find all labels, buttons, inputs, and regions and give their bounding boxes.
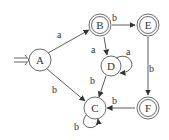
state-A-label: A xyxy=(36,54,44,66)
label-D-C: b xyxy=(90,75,95,86)
label-A-C: b xyxy=(52,84,57,95)
state-F-label: F xyxy=(145,102,151,114)
edge-D-C xyxy=(99,76,106,97)
label-D-D: a xyxy=(126,46,131,57)
state-C-label: C xyxy=(91,102,98,114)
label-F-C: b xyxy=(112,95,117,106)
edge-A-B xyxy=(48,30,89,53)
state-E-label: E xyxy=(145,19,152,31)
label-C-C: b xyxy=(74,121,79,132)
label-B-E: b xyxy=(112,12,117,23)
label-E-F: b xyxy=(149,63,154,74)
start-arrow-icon xyxy=(14,55,29,65)
edge-B-D xyxy=(104,37,107,55)
automaton-diagram: a b b a a b b b b A xyxy=(0,0,169,140)
state-B-label: B xyxy=(96,19,103,31)
label-A-B: a xyxy=(57,29,62,40)
label-B-D: a xyxy=(91,44,96,55)
state-D-label: D xyxy=(107,60,115,72)
